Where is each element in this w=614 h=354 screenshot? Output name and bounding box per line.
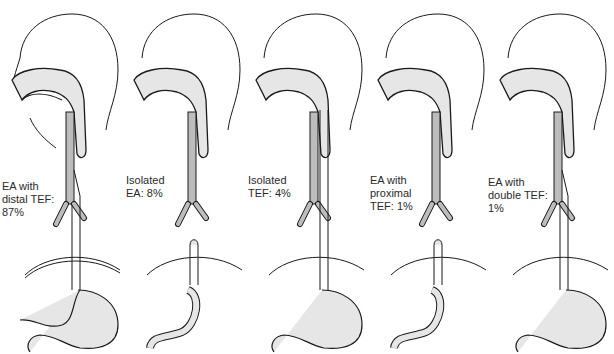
stomach [272, 290, 362, 352]
pharynx [12, 68, 86, 157]
pharynx [500, 68, 574, 157]
diaphragm [391, 257, 486, 275]
pharynx [134, 68, 208, 157]
panel-ea-proximal-tef: EA with proximal TEF: 1% [366, 0, 488, 354]
lower-pouch [190, 240, 198, 285]
lower-pouch [434, 240, 442, 285]
pharynx [256, 68, 330, 157]
trachea [310, 112, 318, 204]
lower-esophagus [74, 170, 80, 290]
diaphragm [147, 257, 242, 275]
stomach [516, 290, 606, 352]
diaphragm [269, 257, 364, 275]
stomach [20, 290, 118, 352]
trachea [554, 112, 562, 204]
panel-label: EA with distal TEF: 87% [2, 180, 54, 219]
panel-ea-distal-tef: EA with distal TEF: 87% [0, 0, 122, 354]
trachea [66, 112, 74, 204]
panel-isolated-ea: Isolated EA: 8% [122, 0, 244, 354]
panel-label: EA with proximal TEF: 1% [370, 174, 413, 213]
panel-label: EA with double TEF: 1% [488, 176, 548, 215]
trachea [432, 112, 440, 204]
panel-label: Isolated EA: 8% [126, 174, 165, 200]
panel-label: Isolated TEF: 4% [248, 174, 291, 200]
pharynx [378, 68, 452, 157]
panel-isolated-tef: Isolated TEF: 4% [244, 0, 366, 354]
trachea [188, 112, 196, 204]
anatomy-illustration [0, 0, 122, 354]
panel-ea-double-tef: EA with double TEF: 1% [488, 0, 610, 354]
